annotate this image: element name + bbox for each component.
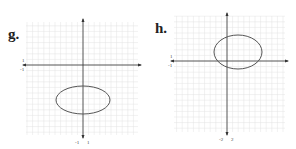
panel-g-tick-y-neg: -1 [20,67,25,72]
panel-h-tick-x-neg: -2 [219,137,224,142]
panel-h-arrow-right-icon [285,60,289,63]
panel-g-tick-y-pos: 1 [22,58,25,63]
panel-h-arrow-up-icon [226,12,229,16]
panel-g-tick-x-pos: 1 [87,140,90,145]
panel-h-arrow-down-icon [226,132,229,136]
panel-g-tick-x-neg: -1 [75,140,80,145]
panel-g-arrow-right-icon [138,64,142,67]
coordinate-planes: 1-1-111-1-22 [0,0,296,149]
panel-h-tick-x-pos: 2 [231,137,234,142]
panel-h-tick-y-neg: -1 [168,63,173,68]
panel-h-tick-y-pos: 1 [170,54,173,59]
panel-g-arrow-up-icon [82,18,85,22]
panel-g-arrow-down-icon [82,135,85,139]
